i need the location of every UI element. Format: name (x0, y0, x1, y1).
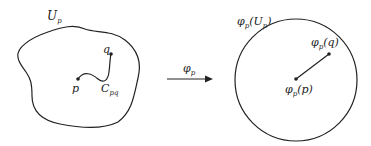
map-arrow-head-icon (205, 76, 213, 83)
region-up-outline (18, 26, 140, 127)
image-p-label: φp(p) (285, 83, 313, 98)
image-p-dot (294, 77, 298, 81)
map-label: φp (183, 62, 196, 77)
segment-image (296, 54, 329, 79)
curve-cpq-label: Cpq (101, 82, 119, 97)
image-q-label: φp(q) (311, 36, 339, 51)
region-image-label: φp(Up) (237, 15, 272, 30)
point-p-dot (76, 77, 80, 81)
image-q-dot (327, 52, 331, 56)
region-up-label: Up (47, 9, 62, 25)
point-p-label: p (72, 82, 79, 95)
point-q-label: q (103, 43, 110, 56)
curve-cpq (78, 54, 111, 81)
chart-diagram: Up p q Cpq φp φp(Up) φp(q) φp(p) (0, 0, 371, 146)
